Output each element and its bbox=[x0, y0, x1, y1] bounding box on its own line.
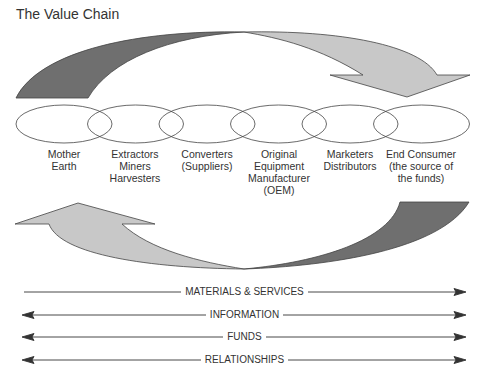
stage-ellipse-2 bbox=[88, 105, 184, 143]
stage-ellipse-4 bbox=[231, 105, 327, 143]
flow-label-materials: MATERIALS & SERVICES bbox=[181, 286, 308, 297]
stage-ellipse-1 bbox=[16, 105, 112, 143]
flow-label-relationships: RELATIONSHIPS bbox=[201, 354, 288, 365]
flow-information: INFORMATION bbox=[22, 309, 467, 321]
stage-ellipse-6 bbox=[374, 105, 470, 143]
flow-label-information: INFORMATION bbox=[206, 309, 283, 320]
flow-funds: FUNDS bbox=[22, 331, 467, 343]
bottom-arrow-dark-segment bbox=[244, 202, 469, 269]
stage-ellipses bbox=[16, 105, 470, 143]
bottom-arrow-light-segment bbox=[15, 203, 244, 269]
top-arrow-dark-segment bbox=[16, 32, 244, 98]
flow-relationships: RELATIONSHIPS bbox=[22, 354, 467, 366]
flow-materials: MATERIALS & SERVICES bbox=[22, 286, 467, 298]
stage-ellipse-5 bbox=[302, 105, 398, 143]
top-arrow-light-segment bbox=[244, 32, 470, 97]
stage-ellipse-3 bbox=[159, 105, 255, 143]
flow-label-funds: FUNDS bbox=[223, 331, 265, 342]
stage-label-end-consumer: End Consumer (the source of the funds) bbox=[376, 148, 466, 184]
